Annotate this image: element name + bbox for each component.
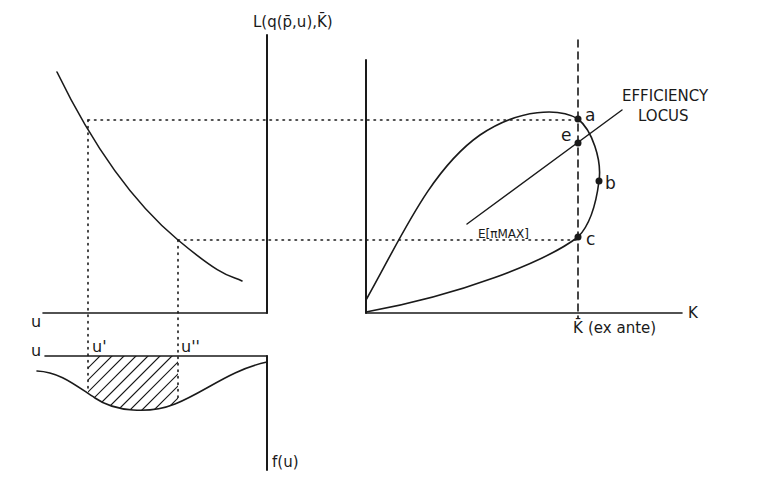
- efficiency-locus-label-1: EFFICIENCY: [622, 87, 709, 105]
- u-double-prime-label: u'': [181, 337, 200, 356]
- lower-u-label: u: [31, 341, 41, 360]
- k-bar-suffix-label: (ex ante): [588, 319, 656, 337]
- upper-u-label: u: [31, 312, 41, 331]
- point-e-marker: [575, 140, 582, 147]
- top-axis-label: L(q(p̄,u),K̄): [253, 12, 333, 31]
- point-c-label: c: [586, 229, 595, 249]
- u-to-l-curve: [57, 72, 242, 281]
- u-prime-label: u': [92, 337, 107, 356]
- k-bar-label: K̄: [573, 318, 584, 337]
- density-label: f(u): [272, 453, 299, 471]
- k-axis-label: K: [688, 304, 699, 322]
- point-e-label: e: [561, 125, 571, 145]
- density-curve: [37, 362, 267, 410]
- point-b-label: b: [605, 173, 616, 193]
- point-c-marker: [575, 234, 582, 241]
- point-a-label: a: [585, 105, 595, 125]
- point-a-marker: [575, 116, 582, 123]
- expected-profit-max-label: E[πMAX]: [478, 227, 529, 241]
- efficiency-locus-label-2: LOCUS: [638, 107, 689, 125]
- point-b-marker: [596, 178, 603, 185]
- diagram-canvas: L(q(p̄,u),K̄) EFFICIENCY LOCUS E[πMAX] a…: [0, 0, 767, 496]
